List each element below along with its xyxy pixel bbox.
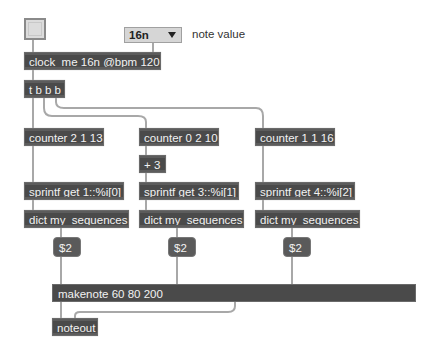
plus-object[interactable]: + 3 — [139, 155, 166, 173]
dict-object-3[interactable]: dict my_sequences — [255, 210, 360, 228]
counter-object-3[interactable]: counter 1 1 16 — [255, 128, 335, 146]
makenote-object[interactable]: makenote 60 80 200 — [52, 284, 416, 302]
max-patcher-canvas[interactable]: 16n note value clock_me 16n @bpm 120 t b… — [0, 0, 438, 353]
noteout-object[interactable]: noteout — [52, 318, 98, 336]
sprintf-object-1[interactable]: sprintf get 1::%i[0] — [24, 182, 124, 200]
note-value-comment: note value — [192, 28, 245, 40]
menu-selected-value: 16n — [129, 29, 149, 41]
sprintf-object-3[interactable]: sprintf get 4::%i[2] — [255, 182, 355, 200]
message-box-2[interactable]: $2 — [168, 237, 196, 257]
sprintf-object-2[interactable]: sprintf get 3::%i[1] — [139, 182, 239, 200]
toggle-button[interactable] — [24, 18, 46, 40]
note-value-menu[interactable]: 16n — [124, 27, 182, 43]
dict-object-2[interactable]: dict my_sequences — [139, 210, 244, 228]
dict-object-1[interactable]: dict my_sequences — [24, 210, 129, 228]
clock-object[interactable]: clock_me 16n @bpm 120 — [24, 52, 161, 70]
dropdown-arrow-icon — [168, 32, 176, 38]
trigger-object[interactable]: t b b b — [24, 80, 65, 98]
message-box-1[interactable]: $2 — [53, 237, 81, 257]
message-box-3[interactable]: $2 — [283, 237, 311, 257]
counter-object-1[interactable]: counter 2 1 13 — [24, 128, 104, 146]
counter-object-2[interactable]: counter 0 2 10 — [139, 128, 219, 146]
